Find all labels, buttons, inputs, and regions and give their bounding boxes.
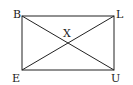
vertex-label-B: B [13,8,21,21]
rectangle-diagram: B L U E X [0,0,133,85]
intersection-label-X: X [63,27,71,40]
vertex-label-L: L [116,8,124,21]
vertex-label-E: E [12,72,20,85]
vertex-label-U: U [111,72,120,85]
